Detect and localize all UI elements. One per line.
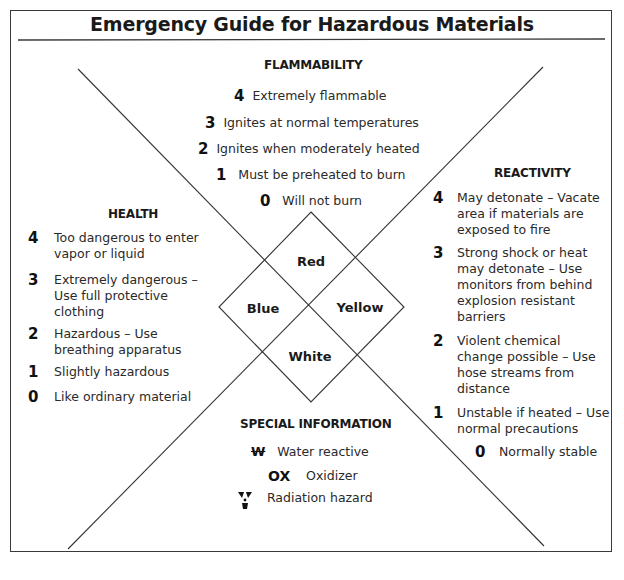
diamond-cell-white: White xyxy=(270,349,350,364)
level-description-line: vapor or liquid xyxy=(54,246,145,261)
diamond-cell-yellow: Yellow xyxy=(320,300,400,315)
level-number: 3 xyxy=(28,272,54,288)
health-item: 4 Too dangerous to enter vapor or liquid xyxy=(28,230,199,262)
level-description-line: clothing xyxy=(54,304,104,319)
level-number: 3 xyxy=(205,115,215,131)
level-number: 2 xyxy=(198,141,208,157)
level-description: Ignites when moderately heated xyxy=(216,141,419,157)
level-description-line: exposed to fire xyxy=(457,222,551,237)
level-number: 4 xyxy=(234,88,244,104)
special-information-heading: SPECIAL INFORMATION xyxy=(240,417,392,431)
reactivity-item: 0 Normally stable xyxy=(475,444,597,461)
reactivity-heading: REACTIVITY xyxy=(494,166,571,180)
level-number: 0 xyxy=(475,444,499,460)
level-description-line: Strong shock or heat xyxy=(457,245,587,260)
health-item: 1 Slightly hazardous xyxy=(28,364,169,381)
health-item: 0 Like ordinary material xyxy=(28,389,191,406)
level-description: Must be preheated to burn xyxy=(238,167,405,183)
special-description: Water reactive xyxy=(277,444,368,460)
page-title: Emergency Guide for Hazardous Materials xyxy=(18,13,606,35)
level-description-line: Unstable if heated – Use xyxy=(457,405,609,420)
level-description-line: breathing apparatus xyxy=(54,342,182,357)
title-separator xyxy=(18,39,605,40)
level-description-line: Extremely dangerous – xyxy=(54,272,198,287)
diamond-cell-red: Red xyxy=(271,254,351,269)
reactivity-item: 3 Strong shock or heat may detonate – Us… xyxy=(433,245,592,325)
special-item-oxidizer: OX Oxidizer xyxy=(268,468,358,485)
level-number: 4 xyxy=(28,230,54,246)
reactivity-item: 1 Unstable if heated – Use normal precau… xyxy=(433,405,609,437)
special-description: Radiation hazard xyxy=(267,490,373,506)
flammability-item: 1 Must be preheated to burn xyxy=(216,167,406,184)
level-description-line: hose streams from xyxy=(457,365,574,380)
reactivity-item: 2 Violent chemical change possible – Use… xyxy=(433,333,596,397)
level-description-line: Hazardous – Use xyxy=(54,326,158,341)
level-description-line: explosion resistant xyxy=(457,293,575,308)
level-number: 4 xyxy=(433,190,457,206)
level-number: 2 xyxy=(28,326,54,342)
level-number: 3 xyxy=(433,245,457,261)
diamond-cell-blue: Blue xyxy=(223,301,303,316)
water-reactive-symbol: W xyxy=(251,444,265,460)
flammability-item: 3 Ignites at normal temperatures xyxy=(205,115,419,132)
level-description-line: Slightly hazardous xyxy=(54,364,169,379)
level-description-line: May detonate – Vacate xyxy=(457,190,600,205)
special-description: Oxidizer xyxy=(306,468,358,484)
level-description-line: Normally stable xyxy=(499,444,597,459)
level-number: 0 xyxy=(260,193,270,209)
level-description-line: Violent chemical xyxy=(457,333,561,348)
radiation-icon xyxy=(235,490,255,510)
level-description-line: may detonate – Use xyxy=(457,261,582,276)
health-item: 3 Extremely dangerous – Use full protect… xyxy=(28,272,198,320)
level-number: 1 xyxy=(216,167,226,183)
health-heading: HEALTH xyxy=(108,207,158,221)
level-description-line: Too dangerous to enter xyxy=(54,230,199,245)
level-description: Will not burn xyxy=(282,193,362,209)
flammability-item: 0 Will not burn xyxy=(260,193,362,210)
level-number: 0 xyxy=(28,389,54,405)
level-description: Extremely flammable xyxy=(252,88,386,104)
level-number: 1 xyxy=(433,405,457,421)
oxidizer-symbol: OX xyxy=(268,468,290,484)
level-description-line: Use full protective xyxy=(54,288,168,303)
flammability-heading: FLAMMABILITY xyxy=(264,58,363,72)
level-description-line: normal precautions xyxy=(457,421,578,436)
level-description: Ignites at normal temperatures xyxy=(223,115,418,131)
health-item: 2 Hazardous – Use breathing apparatus xyxy=(28,326,182,358)
level-description-line: barriers xyxy=(457,309,505,324)
flammability-item: 2 Ignites when moderately heated xyxy=(198,141,420,158)
level-number: 1 xyxy=(28,364,54,380)
level-description-line: Like ordinary material xyxy=(54,389,191,404)
level-description-line: change possible – Use xyxy=(457,349,596,364)
flammability-item: 4 Extremely flammable xyxy=(234,88,387,105)
reactivity-item: 4 May detonate – Vacate area if material… xyxy=(433,190,600,238)
level-description-line: distance xyxy=(457,381,510,396)
level-description-line: area if materials are xyxy=(457,206,584,221)
special-item-water-reactive: W Water reactive xyxy=(251,444,369,460)
level-description-line: monitors from behind xyxy=(457,277,592,292)
special-item-radiation: Radiation hazard xyxy=(235,490,373,510)
level-number: 2 xyxy=(433,333,457,349)
